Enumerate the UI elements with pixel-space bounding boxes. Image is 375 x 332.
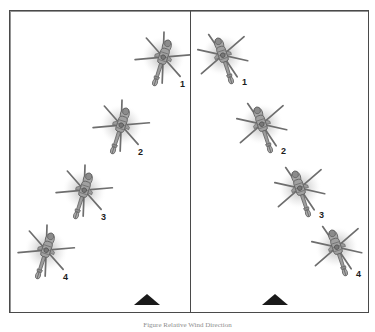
helicopter-left-panel-2 — [81, 90, 159, 168]
helicopter-right-panel-2 — [224, 89, 302, 167]
right-panel: 1 — [190, 11, 370, 312]
helicopter-left-panel-3 — [44, 155, 122, 233]
figure-frame: 1 — [9, 10, 369, 313]
panel-divider — [190, 11, 191, 312]
helicopter-left-panel-4 — [10, 215, 84, 293]
helicopter-label-right-panel-2: 2 — [281, 147, 286, 156]
helicopter-label-left-panel-4: 4 — [63, 273, 68, 282]
helicopter-label-left-panel-3: 3 — [101, 213, 106, 222]
helicopter-label-right-panel-4: 4 — [356, 270, 361, 279]
helicopter-right-panel-3 — [262, 153, 340, 231]
helicopter-right-panel-1 — [190, 20, 263, 98]
helicopter-label-left-panel-1: 1 — [180, 80, 185, 89]
helicopter-label-right-panel-3: 3 — [319, 211, 324, 220]
figure-caption: Figure Relative Wind Direction — [0, 321, 375, 332]
ground-marker-triangle-left-panel — [134, 294, 160, 305]
helicopter-label-left-panel-2: 2 — [138, 148, 143, 157]
left-panel: 1 — [10, 11, 190, 312]
helicopter-label-right-panel-1: 1 — [242, 78, 247, 87]
ground-marker-triangle-right-panel — [262, 294, 288, 305]
